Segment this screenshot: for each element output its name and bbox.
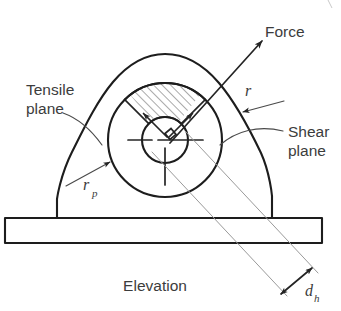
hole-diameter-label-subscript: h — [314, 292, 320, 304]
edge-artifact — [328, 0, 332, 8]
hole-diameter-label: d — [305, 282, 314, 299]
base-plate — [5, 218, 322, 243]
tensile-plane-label-line2: plane — [26, 100, 64, 117]
hole-centre-lines — [128, 140, 203, 185]
force-label: Force — [265, 23, 305, 40]
tensile-plane-label-line1: Tensile — [26, 81, 74, 98]
figure-caption: Elevation — [123, 277, 187, 294]
outer-radius-label: r — [245, 82, 252, 99]
leader-radius-outer — [243, 101, 284, 112]
elevation-diagram-figure: Force Tensile plane Shear plane r r p d … — [0, 0, 341, 311]
shear-plane-label-line1: Shear — [288, 123, 329, 140]
leader-shear-plane — [220, 129, 283, 145]
diagram-canvas: Force Tensile plane Shear plane r r p d … — [0, 0, 341, 311]
padeye-body-outline — [57, 54, 272, 218]
pad-radius-label: r — [83, 176, 90, 193]
pad-radius-label-subscript: p — [91, 187, 98, 199]
shear-plane-label-line2: plane — [288, 142, 326, 159]
